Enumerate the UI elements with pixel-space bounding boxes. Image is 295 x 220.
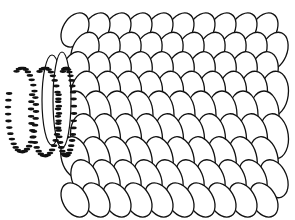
bead xyxy=(7,132,13,135)
bead xyxy=(15,149,21,152)
bead xyxy=(58,146,64,149)
bead xyxy=(56,112,62,115)
bead xyxy=(33,117,39,120)
bead xyxy=(5,120,11,123)
bead xyxy=(29,78,35,81)
bead xyxy=(70,127,76,130)
bead xyxy=(51,144,57,147)
bead xyxy=(6,92,12,95)
bead xyxy=(32,96,38,99)
bead xyxy=(49,149,55,152)
bead xyxy=(56,129,62,132)
bead xyxy=(29,93,35,96)
bead xyxy=(70,98,76,101)
bead xyxy=(57,141,63,144)
bead xyxy=(48,71,54,74)
bead xyxy=(28,115,34,118)
bead xyxy=(56,105,62,108)
bead xyxy=(67,149,73,152)
bead xyxy=(68,79,74,82)
bead xyxy=(53,85,59,88)
bead xyxy=(71,119,77,122)
bead xyxy=(23,68,29,71)
bead xyxy=(55,98,61,101)
bead xyxy=(34,146,40,149)
bead xyxy=(55,115,61,118)
bead xyxy=(59,150,65,153)
bead xyxy=(56,119,62,122)
bead xyxy=(55,127,61,130)
bead xyxy=(56,135,62,138)
bead xyxy=(60,153,66,156)
bead xyxy=(6,126,12,129)
bead xyxy=(55,108,61,111)
bead xyxy=(55,100,61,103)
bead xyxy=(26,145,32,148)
bead xyxy=(5,99,11,102)
bead xyxy=(52,79,58,82)
bead xyxy=(31,90,37,93)
bead xyxy=(66,71,72,74)
bead xyxy=(67,74,73,77)
bead xyxy=(28,100,34,103)
bead xyxy=(33,110,39,113)
bead xyxy=(27,74,33,77)
bead xyxy=(30,84,36,87)
bead xyxy=(53,139,59,142)
bead xyxy=(5,106,11,109)
bead xyxy=(46,68,52,71)
bead xyxy=(50,74,56,77)
bead xyxy=(11,142,17,145)
bead xyxy=(36,150,42,153)
bead xyxy=(38,153,44,156)
bead xyxy=(33,103,39,106)
bead xyxy=(28,108,34,111)
bead xyxy=(9,138,15,141)
bead xyxy=(25,71,31,74)
bead xyxy=(5,113,11,116)
petal-illustration xyxy=(0,0,295,220)
bead xyxy=(71,112,77,115)
bead xyxy=(30,135,36,138)
petal-scales xyxy=(42,8,293,220)
bead xyxy=(69,85,75,88)
bead xyxy=(69,139,75,142)
bead xyxy=(65,68,71,71)
bead xyxy=(68,144,74,147)
bead xyxy=(55,122,61,125)
bead xyxy=(32,141,38,144)
illustration-canvas xyxy=(0,0,295,220)
bead xyxy=(70,91,76,94)
bead xyxy=(54,91,60,94)
bead xyxy=(29,129,35,132)
bead xyxy=(55,93,61,96)
bead xyxy=(70,133,76,136)
bead xyxy=(13,146,19,149)
bead xyxy=(71,105,77,108)
bead xyxy=(28,122,34,125)
